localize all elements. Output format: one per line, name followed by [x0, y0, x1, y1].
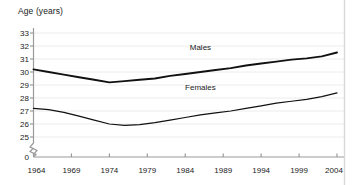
x-axis-tick-label: 1984 — [176, 166, 194, 175]
x-axis-tick-label: 1969 — [63, 166, 81, 175]
y-axis-tick-label: 26 — [13, 120, 29, 129]
y-axis-tick-label: 25 — [13, 133, 29, 142]
y-axis-tick-label: 30 — [13, 68, 29, 77]
y-axis-tick-label: 31 — [13, 55, 29, 64]
y-axis-zero-label: 0 — [13, 153, 29, 162]
chart-plot-area — [0, 0, 353, 185]
y-axis-tick-label: 33 — [13, 29, 29, 38]
series-label-males: Males — [190, 43, 211, 52]
y-axis-tick-label: 32 — [13, 42, 29, 51]
y-axis-tick-label: 28 — [13, 94, 29, 103]
series-line-males — [34, 53, 338, 83]
age-at-marriage-line-chart: Age (years) 3332313029282726250 19641969… — [0, 0, 353, 185]
x-axis-tick-label: 1964 — [28, 166, 46, 175]
series-label-females: Females — [185, 83, 216, 92]
x-axis-tick-label: 1974 — [100, 166, 118, 175]
x-axis-tick-label: 1979 — [138, 166, 156, 175]
y-axis-tick-labels: 3332313029282726250 — [5, 0, 29, 185]
y-axis-tick-label: 29 — [13, 81, 29, 90]
y-axis-tick-label: 27 — [13, 107, 29, 116]
x-axis-tick-label: 2004 — [325, 166, 343, 175]
x-axis-tick-label: 1989 — [214, 166, 232, 175]
x-axis-tick-label: 1999 — [290, 166, 308, 175]
x-axis-tick-label: 1994 — [252, 166, 270, 175]
